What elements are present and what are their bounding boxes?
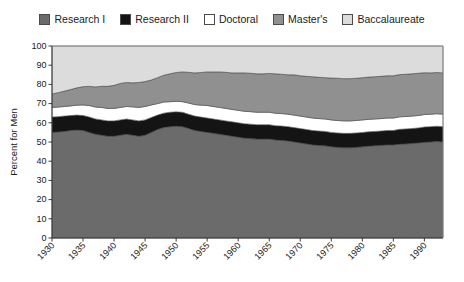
- y-tick-label: 80: [36, 79, 46, 89]
- y-tick-label: 70: [36, 98, 46, 108]
- plot-area-wrapper: 0102030405060708090100193019351940194519…: [0, 0, 464, 282]
- x-tick-label: 1985: [377, 240, 398, 261]
- y-axis-title: Percent for Men: [8, 108, 19, 176]
- y-tick-label: 60: [36, 118, 46, 128]
- x-tick-label: 1970: [283, 240, 304, 261]
- x-tick-label: 1975: [314, 240, 335, 261]
- y-tick-label: 90: [36, 60, 46, 70]
- x-tick-label: 1955: [190, 240, 211, 261]
- x-tick-label: 1980: [345, 240, 366, 261]
- stacked-area-chart-figure: Research IResearch IIDoctoralMaster'sBac…: [0, 0, 464, 282]
- x-tick-label: 1960: [221, 240, 242, 261]
- x-tick-label: 1930: [35, 240, 56, 261]
- x-tick-label: 1940: [97, 240, 118, 261]
- x-tick-label: 1965: [252, 240, 273, 261]
- y-tick-label: 100: [31, 41, 46, 51]
- x-tick-label: 1950: [159, 240, 180, 261]
- x-tick-label: 1945: [128, 240, 149, 261]
- y-tick-label: 30: [36, 175, 46, 185]
- y-tick-label: 20: [36, 194, 46, 204]
- chart-svg: 0102030405060708090100193019351940194519…: [0, 0, 464, 282]
- y-tick-label: 40: [36, 156, 46, 166]
- x-tick-label: 1935: [66, 240, 87, 261]
- y-tick-label: 10: [36, 214, 46, 224]
- x-tick-label: 1990: [408, 240, 429, 261]
- y-tick-label: 0: [41, 233, 46, 243]
- y-tick-label: 50: [36, 137, 46, 147]
